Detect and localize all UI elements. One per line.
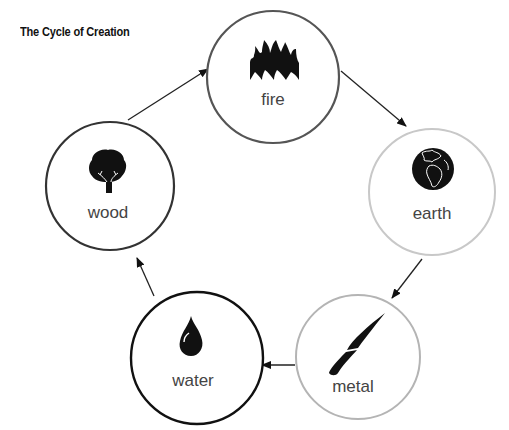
arrow-wood-to-fire (128, 69, 208, 120)
node-metal: metal (296, 295, 420, 419)
node-wood: wood (46, 122, 174, 250)
node-metal-circle (296, 295, 420, 419)
node-fire: fire (207, 11, 339, 143)
node-fire-label: fire (261, 90, 285, 109)
node-earth-label: earth (413, 204, 452, 223)
arrow-water-to-wood (137, 258, 154, 296)
node-earth-circle (369, 129, 495, 255)
node-water-circle (131, 292, 263, 424)
globe-icon (412, 148, 454, 190)
cycle-diagram: fire earth metal water wood (0, 0, 509, 430)
node-water: water (131, 292, 263, 424)
arrow-earth-to-metal (392, 259, 422, 298)
node-wood-label: wood (87, 203, 129, 222)
arrow-fire-to-earth (341, 71, 406, 126)
node-metal-label: metal (332, 377, 374, 396)
node-water-label: water (171, 371, 214, 390)
node-earth: earth (369, 129, 495, 255)
